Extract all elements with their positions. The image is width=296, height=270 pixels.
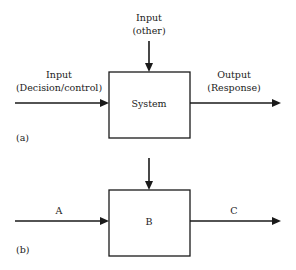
diagram-a: Input (other) Input (Decision/control) O…	[15, 12, 281, 143]
top-input-label-line2: (other)	[132, 25, 165, 36]
arrowhead-icon	[272, 99, 281, 107]
block-b-label: B	[146, 216, 153, 227]
panel-label-b: (b)	[16, 244, 30, 255]
panel-label-a: (a)	[16, 132, 29, 143]
output-label-line2: (Response)	[207, 82, 260, 93]
input-label-a: A	[55, 205, 63, 216]
diagram-b: A C B (b)	[15, 158, 281, 256]
system-block-diagram: Input (other) Input (Decision/control) O…	[0, 0, 296, 270]
arrowhead-icon	[100, 217, 109, 225]
arrowhead-icon	[145, 181, 153, 190]
left-input-label-line1: Input	[46, 69, 72, 80]
arrowhead-icon	[272, 217, 281, 225]
output-label-line1: Output	[217, 69, 251, 80]
system-block-label: System	[131, 98, 166, 109]
top-input-label-line1: Input	[136, 12, 162, 23]
left-input-label-line2: (Decision/control)	[16, 82, 102, 93]
arrowhead-icon	[100, 99, 109, 107]
output-label-c: C	[230, 205, 237, 216]
arrowhead-icon	[145, 63, 153, 72]
